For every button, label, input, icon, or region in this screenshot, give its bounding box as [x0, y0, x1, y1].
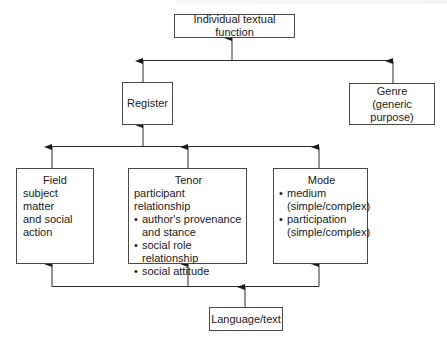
bullet-item: participation (simple/complex) — [279, 213, 364, 239]
node-label: Individual textual function — [175, 13, 294, 39]
node-genre: Genre (generic purpose) — [349, 83, 435, 125]
node-desc-line: and social — [23, 213, 87, 226]
node-register: Register — [122, 82, 173, 125]
node-tenor: Tenor participant relationship author's … — [128, 168, 247, 264]
node-desc-line: action — [23, 226, 87, 239]
bullet-text: social role relationship — [142, 239, 243, 265]
node-title: Tenor — [134, 174, 243, 187]
node-individual-textual-function: Individual textual function — [174, 14, 295, 38]
node-title: Mode — [279, 174, 364, 187]
bullet-text: author's provenance — [142, 213, 243, 226]
bullet-text: participation — [287, 213, 364, 226]
bullet-text: medium — [287, 187, 364, 200]
bullet-list: medium (simple/complex) participation (s… — [279, 187, 364, 239]
node-label: Language/text — [211, 313, 281, 326]
bullet-text: and stance — [142, 226, 243, 239]
node-title: Field — [23, 174, 87, 187]
node-desc-line: subject matter — [23, 187, 87, 213]
bullet-list: author's provenance and stance social ro… — [134, 213, 243, 278]
node-field: Field subject matter and social action — [16, 168, 94, 264]
bullet-text: social attitude — [142, 265, 243, 278]
node-title: Genre — [377, 85, 408, 98]
node-label: Register — [127, 97, 168, 110]
bullet-item: medium (simple/complex) — [279, 187, 364, 213]
bullet-text: (simple/complex) — [287, 226, 364, 239]
node-mode: Mode medium (simple/complex) participati… — [273, 168, 368, 264]
bullet-item: social role relationship — [134, 239, 243, 265]
diagram-canvas: Individual textual function Register Gen… — [0, 0, 447, 343]
scan-bleed-through — [175, 0, 447, 4]
bullet-item: author's provenance and stance — [134, 213, 243, 239]
bullet-item: social attitude — [134, 265, 243, 278]
bullet-text: (simple/complex) — [287, 200, 364, 213]
node-subtitle: participant relationship — [134, 187, 243, 213]
node-language-text: Language/text — [209, 307, 283, 331]
node-subtitle: (generic purpose) — [350, 98, 434, 124]
